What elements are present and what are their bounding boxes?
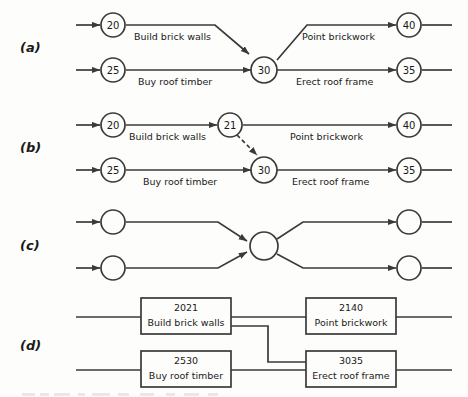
panel-d-box-2021-task: Build brick walls: [147, 317, 224, 328]
panel-a-edge-label-point-brickwork: Point brickwork: [302, 31, 375, 42]
panel-b-label: (b): [20, 140, 41, 155]
panel-b-node-35-label: 35: [403, 165, 416, 176]
panel-a-edge-label-build-brick-walls: Build brick walls: [134, 31, 211, 42]
panel-b-edge-label-build-brick-walls: Build brick walls: [129, 131, 206, 142]
panel-b-node-21-label: 21: [224, 120, 237, 131]
panel-d-box-2021-number: 2021: [174, 302, 198, 313]
panel-d-box-2530-task: Buy roof timber: [149, 370, 223, 381]
panel-d-box-2140-number: 2140: [339, 302, 363, 313]
panel-d-connector-2021-3035: [231, 326, 306, 362]
panel-a-label: (a): [20, 40, 41, 55]
panel-a-node-20-label: 20: [107, 20, 120, 31]
panel-c-node-centre: [250, 232, 278, 260]
panel-b-node-20-label: 20: [107, 120, 120, 131]
network-diagram: (a) 20 25 30 40 35: [0, 0, 468, 397]
panel-c-edge-centre-bottomright: [277, 254, 396, 268]
panel-c: (c): [20, 210, 452, 280]
panel-d-label: (d): [20, 338, 41, 353]
panel-a-node-35-label: 35: [403, 65, 416, 76]
panel-c-edge-bottomleft-centre: [126, 252, 247, 268]
panel-c-edge-topleft-centre: [126, 222, 247, 241]
panel-c-node-top-left: [101, 210, 125, 234]
panel-b-edge-dummy-21-30: [237, 135, 257, 155]
panel-d-box-3035-number: 3035: [339, 355, 363, 366]
page-bottom-clipped-text: [22, 393, 218, 396]
panel-b-node-30-label: 30: [258, 165, 271, 176]
panel-c-node-bottom-right: [397, 256, 421, 280]
panel-b-node-40-label: 40: [403, 120, 416, 131]
panel-d-box-3035-task: Erect roof frame: [312, 370, 390, 381]
panel-a: (a) 20 25 30 40 35: [20, 13, 452, 87]
panel-d-box-2140-task: Point brickwork: [315, 317, 388, 328]
panel-a-edge-label-erect-roof-frame: Erect roof frame: [296, 76, 374, 87]
panel-d: (d) 2021 Build brick walls 2140 Point br…: [20, 298, 452, 387]
panel-c-label: (c): [20, 238, 40, 253]
panel-d-box-2530-number: 2530: [174, 355, 198, 366]
panel-a-node-25-label: 25: [107, 65, 120, 76]
figure-canvas: (a) 20 25 30 40 35: [0, 0, 468, 397]
panel-c-node-top-right: [397, 210, 421, 234]
panel-a-edge-label-buy-roof-timber: Buy roof timber: [138, 76, 212, 87]
panel-c-node-bottom-left: [101, 256, 125, 280]
panel-b: (b) 20 21 25 30 40: [20, 113, 452, 187]
panel-a-node-30-label: 30: [258, 65, 271, 76]
panel-c-edge-centre-topright: [277, 222, 396, 239]
panel-b-edge-label-erect-roof-frame: Erect roof frame: [292, 176, 370, 187]
panel-b-node-25-label: 25: [107, 165, 120, 176]
panel-b-edge-label-point-brickwork: Point brickwork: [290, 131, 363, 142]
panel-a-node-40-label: 40: [403, 20, 416, 31]
panel-b-edge-label-buy-roof-timber: Buy roof timber: [143, 176, 217, 187]
